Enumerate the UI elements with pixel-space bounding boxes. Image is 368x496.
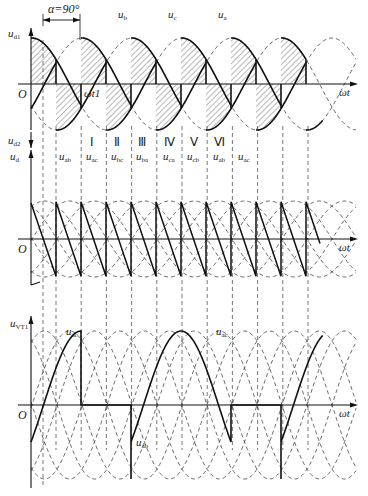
interval-IV: Ⅳ xyxy=(164,136,175,148)
annotation-uac-1: uac xyxy=(66,326,78,339)
interval-V: Ⅴ xyxy=(190,136,198,148)
bottom-origin-label: O xyxy=(18,408,27,423)
segment-label-uac-1: uac xyxy=(86,151,98,164)
segment-label-uab-1: uab xyxy=(59,151,71,164)
top-x-axis-label: ωt xyxy=(339,87,350,98)
top-origin-label: O xyxy=(18,87,27,102)
segment-label-ubc: ubc xyxy=(111,151,123,164)
segment-label-uac-2: uac xyxy=(238,151,250,164)
bottom-x-axis-label: ωt xyxy=(339,408,350,419)
segment-label-uca: uca xyxy=(163,151,175,164)
phase-label-uc: uc xyxy=(168,9,177,22)
middle-x-axis-label: ωt xyxy=(339,242,350,253)
waveform-figure xyxy=(0,0,368,496)
interval-VI: Ⅵ xyxy=(214,136,225,148)
segment-label-uab-2: uab xyxy=(213,151,225,164)
bottom-y-axis-label: uVT1 xyxy=(10,318,28,331)
middle-y-axis-label-ud2: ud2 xyxy=(8,135,21,148)
segment-label-ucb: ucb xyxy=(187,151,199,164)
middle-y-axis-label-ud: ud xyxy=(10,151,19,164)
alpha-label: α=90° xyxy=(48,3,79,15)
top-y-axis-label: ud1 xyxy=(8,28,21,41)
interval-I: Ⅰ xyxy=(90,136,94,148)
segment-label-uba: uba xyxy=(136,151,148,164)
interval-II: Ⅱ xyxy=(114,136,120,148)
phase-label-ub: ub xyxy=(118,9,127,22)
middle-origin-label: O xyxy=(18,242,27,257)
interval-III: Ⅲ xyxy=(138,136,146,148)
annotation-uab: uab xyxy=(136,437,148,450)
phase-label-ua: ua xyxy=(218,9,227,22)
annotation-uac-2: uac xyxy=(216,326,228,339)
wt1-label: ωt1 xyxy=(84,88,100,99)
